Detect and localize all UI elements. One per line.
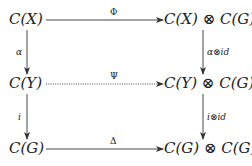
node-cx: C(X)	[9, 12, 43, 27]
node-cg-tensor-cg: C(G) ⊗ C(G)	[164, 141, 252, 156]
node-cg: C(G)	[9, 141, 44, 156]
node-cy-tensor-cg: C(Y) ⊗ C(G)	[164, 76, 252, 91]
label-i: i	[18, 113, 21, 122]
label-psi: Ψ	[110, 72, 118, 81]
label-phi: Φ	[110, 8, 117, 17]
label-alpha-id: α⊗id	[207, 48, 229, 57]
node-cy: C(Y)	[9, 76, 42, 91]
label-alpha: α	[16, 48, 22, 57]
label-i-id: i⊗id	[207, 113, 226, 122]
label-delta: Δ	[110, 137, 117, 146]
node-cx-tensor-cg: C(X) ⊗ C(G)	[164, 12, 252, 27]
